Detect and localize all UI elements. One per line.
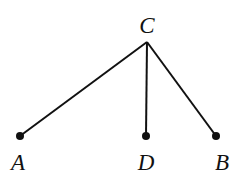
label-b: B bbox=[215, 150, 229, 175]
label-d: D bbox=[137, 150, 155, 175]
label-c: C bbox=[139, 13, 155, 38]
point-a-dot bbox=[16, 132, 24, 140]
point-d-dot bbox=[142, 132, 150, 140]
segment-ca bbox=[20, 42, 147, 136]
diagram-canvas: C A D B bbox=[0, 0, 247, 180]
point-b-dot bbox=[212, 132, 220, 140]
segment-cb bbox=[147, 42, 216, 136]
segment-cd bbox=[146, 42, 147, 136]
label-a: A bbox=[9, 150, 26, 175]
